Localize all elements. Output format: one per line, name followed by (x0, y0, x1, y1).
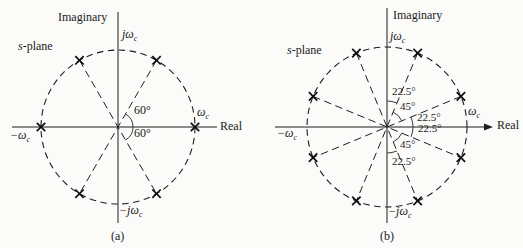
neg-wc-label: −ωc (10, 129, 30, 141)
pole-marker (457, 92, 465, 100)
pole-marker (413, 49, 421, 57)
pole-marker (75, 56, 83, 64)
neg-jwc-label: −jωc (388, 205, 411, 217)
angle-arc (387, 151, 397, 153)
pole-marker (152, 189, 160, 197)
real-axis-label: Real (220, 120, 242, 132)
pole-marker (352, 49, 360, 57)
pole-marker (457, 153, 465, 161)
s-plane-figure: Imaginary s-plane jωc −jωc ωc −ωc Real (… (0, 0, 523, 248)
angle-value-label: 60° (134, 104, 151, 116)
angle-arc (387, 101, 397, 103)
pole-marker (352, 197, 360, 205)
pole-marker (75, 189, 83, 197)
neg-wc-label: −ωc (277, 127, 297, 139)
angle-value-label: 45° (400, 101, 415, 112)
pole-marker (152, 56, 160, 64)
imaginary-axis-label: Imaginary (58, 11, 107, 23)
neg-jwc-label: −jωc (119, 204, 142, 216)
jwc-label: jωc (122, 28, 137, 40)
jwc-label: jωc (390, 30, 405, 42)
angle-value-label: 22.5° (392, 86, 416, 97)
angle-value-label: 45° (400, 139, 415, 150)
panel-a-caption: (a) (111, 229, 124, 244)
angle-value-label: 60° (134, 127, 151, 139)
angle-value-label: 22.5° (418, 123, 442, 134)
wc-label: ωc (197, 106, 209, 118)
pole-zero-geometry (0, 0, 523, 248)
s-plane-label: s-plane (18, 40, 53, 52)
pole-marker (309, 92, 317, 100)
real-axis-label: Real (497, 119, 519, 131)
wc-label: ωc (468, 105, 480, 117)
imaginary-axis-label: Imaginary (393, 9, 442, 21)
panel-b-caption: (b) (380, 229, 394, 244)
panel-b-geometry (275, 8, 493, 223)
s-plane-label: s-plane (287, 44, 322, 56)
pole-marker (413, 197, 421, 205)
real-axis-arrowhead (484, 124, 493, 131)
angle-value-label: 22.5° (392, 156, 416, 167)
pole-marker (309, 153, 317, 161)
angle-arc (393, 112, 402, 121)
